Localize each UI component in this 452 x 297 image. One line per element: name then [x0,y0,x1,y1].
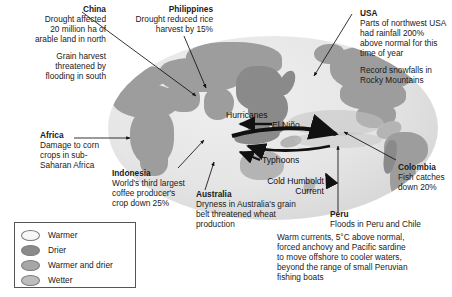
legend-swatch-warmer-and-drier [21,260,40,271]
callout-colombia-para-1: Fish catches down 20% [398,172,452,192]
legend: Warmer Drier Warmer and drier Wetter [14,222,136,288]
leader-usa [314,14,352,76]
callout-usa-para-1: Parts of northwest USA had rainfall 200%… [360,18,452,58]
callout-china-para-1: Drought affected 20 million ha of arable… [6,14,106,44]
callout-china-heading: China [6,4,106,14]
arrow-humboldt [326,174,329,188]
callout-africa-heading: Africa [40,130,116,140]
leader-indonesia [178,140,204,168]
callout-peru-para-1: Floods in Peru and Chile [330,219,450,229]
callout-philippines-heading: Philippines [110,4,213,14]
callout-china-para-2: Grain harvest threatened by flooding in … [6,51,106,81]
legend-item-drier: Drier [21,243,135,257]
legend-swatch-drier [21,245,40,256]
callout-china: China Drought affected 20 million ha of … [6,4,106,81]
legend-item-warmer-and-drier: Warmer and drier [21,258,135,272]
map-label-cold-humboldt-current: Cold Humboldt Current [252,176,324,197]
callout-africa: Africa Damage to corn crops in sub- Saha… [40,130,116,170]
map-label-typhoons: Typhoons [262,155,299,165]
arrow-equatorial-return [248,146,330,151]
legend-item-wetter: Wetter [21,273,135,287]
callout-australia-para-1: Dryness in Australia's grain belt threat… [196,199,306,229]
callout-indonesia: Indonesia World's third largest coffee p… [112,168,208,208]
legend-label-warmer-and-drier: Warmer and drier [48,261,113,269]
map-label-hurricanes: Hurricanes [226,110,268,120]
callout-colombia-heading: Colombia [398,162,452,172]
callout-philippines-para-1: Drought reduced rice harvest by 15% [110,14,213,34]
legend-label-warmer: Warmer [48,231,77,239]
legend-label-wetter: Wetter [48,276,73,284]
callout-usa-heading: USA [360,8,452,18]
peru-detail-note: Warm currents, 5°C above normal, forced … [277,232,449,282]
callout-africa-para-1: Damage to corn crops in sub- Saharan Afr… [40,140,116,170]
callout-indonesia-para-1: World's third largest coffee producer's … [112,178,208,208]
callout-peru: Peru Floods in Peru and Chile [330,209,450,229]
legend-swatch-wetter [21,275,40,286]
figure-root: China Drought affected 20 million ha of … [0,0,452,297]
callout-indonesia-heading: Indonesia [112,168,208,178]
legend-label-drier: Drier [48,246,66,254]
legend-item-warmer: Warmer [21,228,135,242]
map-label-el-nino: El Niño [272,120,300,130]
legend-swatch-warmer [21,230,40,241]
callout-philippines: Philippines Drought reduced rice harvest… [110,4,213,34]
callout-usa: USA Parts of northwest USA had rainfall … [360,8,452,85]
callout-usa-para-2: Record snowfalls in Rocky Mountains [360,65,452,85]
callout-colombia: Colombia Fish catches down 20% [398,162,452,192]
leader-colombia [344,132,396,160]
callout-peru-heading: Peru [330,209,450,219]
leader-philippines [184,36,206,88]
peru-detail-note-text: Warm currents, 5°C above normal, forced … [277,232,449,282]
arrow-typhoons [240,152,260,160]
